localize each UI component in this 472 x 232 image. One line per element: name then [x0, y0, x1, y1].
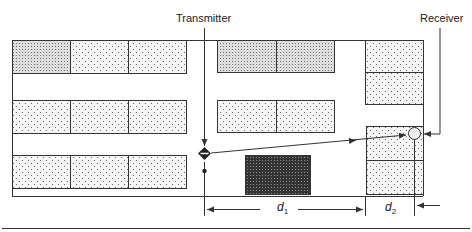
transmitter-icon	[198, 147, 211, 160]
d2-subscript: 2	[392, 207, 396, 216]
d1-subscript: 1	[284, 207, 288, 216]
receiver-pointer	[424, 28, 440, 134]
d1-symbol: d	[277, 200, 284, 214]
d2-symbol: d	[385, 200, 392, 214]
middle-buildings	[218, 41, 335, 195]
obstructing-building	[246, 156, 311, 195]
left-buildings	[13, 41, 187, 189]
transmitter-label: Transmitter	[176, 12, 231, 24]
urban-propagation-diagram	[0, 0, 472, 232]
d1-label: d1	[277, 200, 288, 216]
receiver-label: Receiver	[420, 12, 463, 24]
mast-dot	[202, 169, 206, 173]
d2-label: d2	[385, 200, 396, 216]
receiver-icon	[409, 128, 421, 140]
